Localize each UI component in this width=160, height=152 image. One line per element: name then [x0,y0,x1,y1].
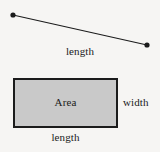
length-line-segment [13,15,147,45]
segment-endpoint-left-dot [10,12,15,17]
rectangle-width-label: width [123,96,149,108]
segment-length-label: length [0,45,160,57]
figure-canvas [0,0,160,152]
geometry-diagram: length Area width length [0,0,160,152]
rectangle-length-label: length [13,131,118,143]
rectangle-area-label: Area [13,96,118,108]
